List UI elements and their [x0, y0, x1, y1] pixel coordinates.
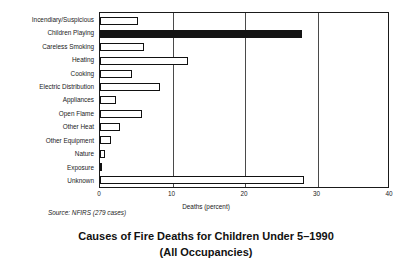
bar — [100, 70, 132, 78]
y-axis-label: Unknown — [0, 177, 97, 185]
y-axis-category-labels: Incendiary/Suspicious Children Playing C… — [0, 12, 97, 188]
chart-title-line-1: Causes of Fire Deaths for Children Under… — [0, 228, 412, 244]
y-axis-label: Careless Smoking — [0, 43, 97, 51]
x-tick-label: 0 — [97, 189, 101, 199]
bar — [100, 43, 144, 51]
bar — [100, 123, 120, 131]
x-axis-ticks: 010203040 — [99, 189, 389, 199]
x-tick-label: 30 — [313, 189, 320, 199]
y-axis-label: Appliances — [0, 96, 97, 104]
bar-row — [100, 136, 388, 144]
y-axis-label: Incendiary/Suspicious — [0, 16, 97, 24]
chart-title-line-2: (All Occupancies) — [0, 244, 412, 260]
x-tick-label: 10 — [168, 189, 175, 199]
x-tick-label: 20 — [240, 189, 247, 199]
bar — [100, 30, 302, 38]
y-axis-label: Cooking — [0, 70, 97, 78]
source-note: Source: NFIRS (279 cases) — [48, 209, 126, 216]
plot-area — [99, 12, 389, 188]
bar-row — [100, 30, 388, 38]
bar — [100, 176, 304, 184]
bar — [100, 163, 102, 171]
bar-row — [100, 150, 388, 158]
bar — [100, 110, 142, 118]
y-axis-label: Nature — [0, 150, 97, 158]
bar — [100, 57, 188, 65]
bar-row — [100, 163, 388, 171]
bar-row — [100, 110, 388, 118]
y-axis-label: Electric Distribution — [0, 83, 97, 91]
bar-row — [100, 83, 388, 91]
y-axis-label: Other Heat — [0, 123, 97, 131]
y-axis-label: Children Playing — [0, 29, 97, 37]
y-axis-label: Exposure — [0, 164, 97, 172]
bar — [100, 136, 111, 144]
bar — [100, 17, 138, 25]
bar-series — [100, 13, 388, 187]
bar-row — [100, 17, 388, 25]
bar-row — [100, 96, 388, 104]
y-axis-label: Other Equipment — [0, 137, 97, 145]
bar — [100, 83, 160, 91]
bar-row — [100, 176, 388, 184]
chart-title: Causes of Fire Deaths for Children Under… — [0, 228, 412, 260]
bar-row — [100, 123, 388, 131]
bar-row — [100, 43, 388, 51]
x-tick-label: 40 — [385, 189, 392, 199]
bar — [100, 150, 105, 158]
bar — [100, 96, 116, 104]
y-axis-label: Heating — [0, 56, 97, 64]
bar-row — [100, 70, 388, 78]
bar-row — [100, 57, 388, 65]
y-axis-label: Open Flame — [0, 110, 97, 118]
chart-figure: Incendiary/Suspicious Children Playing C… — [0, 0, 412, 263]
